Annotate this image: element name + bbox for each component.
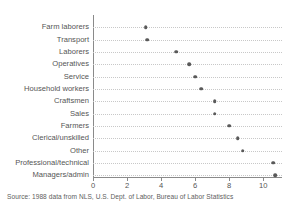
y-axis-tick-label: Household workers	[0, 85, 89, 93]
y-axis-tick-label: Farm laborers	[0, 23, 89, 31]
data-point	[272, 161, 276, 165]
data-point	[273, 173, 277, 177]
gridline-row	[93, 40, 282, 41]
data-point	[193, 75, 197, 79]
gridline-row	[93, 101, 282, 102]
y-axis-tick-label: Laborers	[0, 48, 89, 56]
plot-area	[93, 15, 282, 177]
y-axis-tick-label: Clerical/unskilled	[0, 134, 89, 142]
gridline-row	[93, 27, 282, 28]
data-point	[187, 62, 191, 66]
y-axis-tick-label: Other	[0, 147, 89, 155]
gridline-row	[93, 114, 282, 115]
gridline-row	[93, 138, 282, 139]
x-axis-tick-label: 6	[185, 181, 205, 190]
y-axis-tick-label: Service	[0, 73, 89, 81]
data-point	[199, 87, 203, 91]
x-axis-tick-label: 10	[253, 181, 273, 190]
y-axis-tick-label: Farmers	[0, 122, 89, 130]
gridline-row	[93, 77, 282, 78]
data-point	[213, 112, 217, 116]
data-point	[227, 124, 231, 128]
y-axis-tick-label: Sales	[0, 110, 89, 118]
y-axis-tick-label: Transport	[0, 36, 89, 44]
source-note: Source: 1988 data from NLS, U.S. Dept. o…	[7, 193, 233, 201]
data-point	[241, 149, 245, 153]
x-axis-tick-label: 0	[83, 181, 103, 190]
x-axis-line	[93, 177, 282, 178]
gridline-row	[93, 52, 282, 53]
y-axis-tick-label: Managers/admin	[0, 171, 89, 179]
data-point	[236, 136, 240, 140]
data-point	[144, 25, 148, 29]
x-axis-tick-label: 8	[219, 181, 239, 190]
data-point	[213, 99, 217, 103]
chart-figure: Farm laborersTransportLaborersOperatives…	[0, 0, 299, 212]
gridline-row	[93, 163, 282, 164]
y-axis-tick-label: Craftsmen	[0, 97, 89, 105]
gridline-row	[93, 89, 282, 90]
gridline-row	[93, 151, 282, 152]
gridline-row	[93, 126, 282, 127]
x-axis-tick-label: 2	[117, 181, 137, 190]
x-axis-tick-label: 4	[151, 181, 171, 190]
data-point	[146, 38, 150, 42]
data-point	[175, 50, 179, 54]
y-axis-tick-label: Operatives	[0, 60, 89, 68]
y-axis-tick-label: Professional/technical	[0, 159, 89, 167]
gridline-row	[93, 175, 282, 176]
